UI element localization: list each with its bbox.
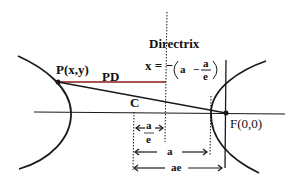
pf-line xyxy=(58,82,226,113)
label-directrix-frac-num: a xyxy=(203,58,209,69)
label-dim-a: a xyxy=(167,146,173,157)
label-directrix: Directrix xyxy=(149,37,199,50)
hyperbola-diagram xyxy=(0,0,301,180)
label-dim-a-over-e-den: e xyxy=(146,134,151,145)
label-pd: PD xyxy=(102,70,119,83)
label-directrix-eq-lhs: x = − xyxy=(145,59,173,72)
point-p xyxy=(56,80,61,85)
directrix-line xyxy=(165,12,167,142)
paren-open xyxy=(174,61,178,79)
label-center: C xyxy=(130,96,139,109)
paren-close xyxy=(213,61,217,79)
label-point-p: P(x,y) xyxy=(56,63,89,76)
label-focus: F(0,0) xyxy=(230,117,262,130)
point-f xyxy=(224,111,229,116)
label-dim-ae: ae xyxy=(171,162,181,173)
label-directrix-eq-a: a xyxy=(180,64,186,75)
label-dim-a-over-e-num: a xyxy=(146,120,152,131)
label-directrix-frac-den: e xyxy=(203,71,208,82)
label-directrix-eq-minus: − xyxy=(193,64,199,75)
vertex-dotted-line xyxy=(210,96,211,156)
center-dotted-line xyxy=(133,112,134,170)
